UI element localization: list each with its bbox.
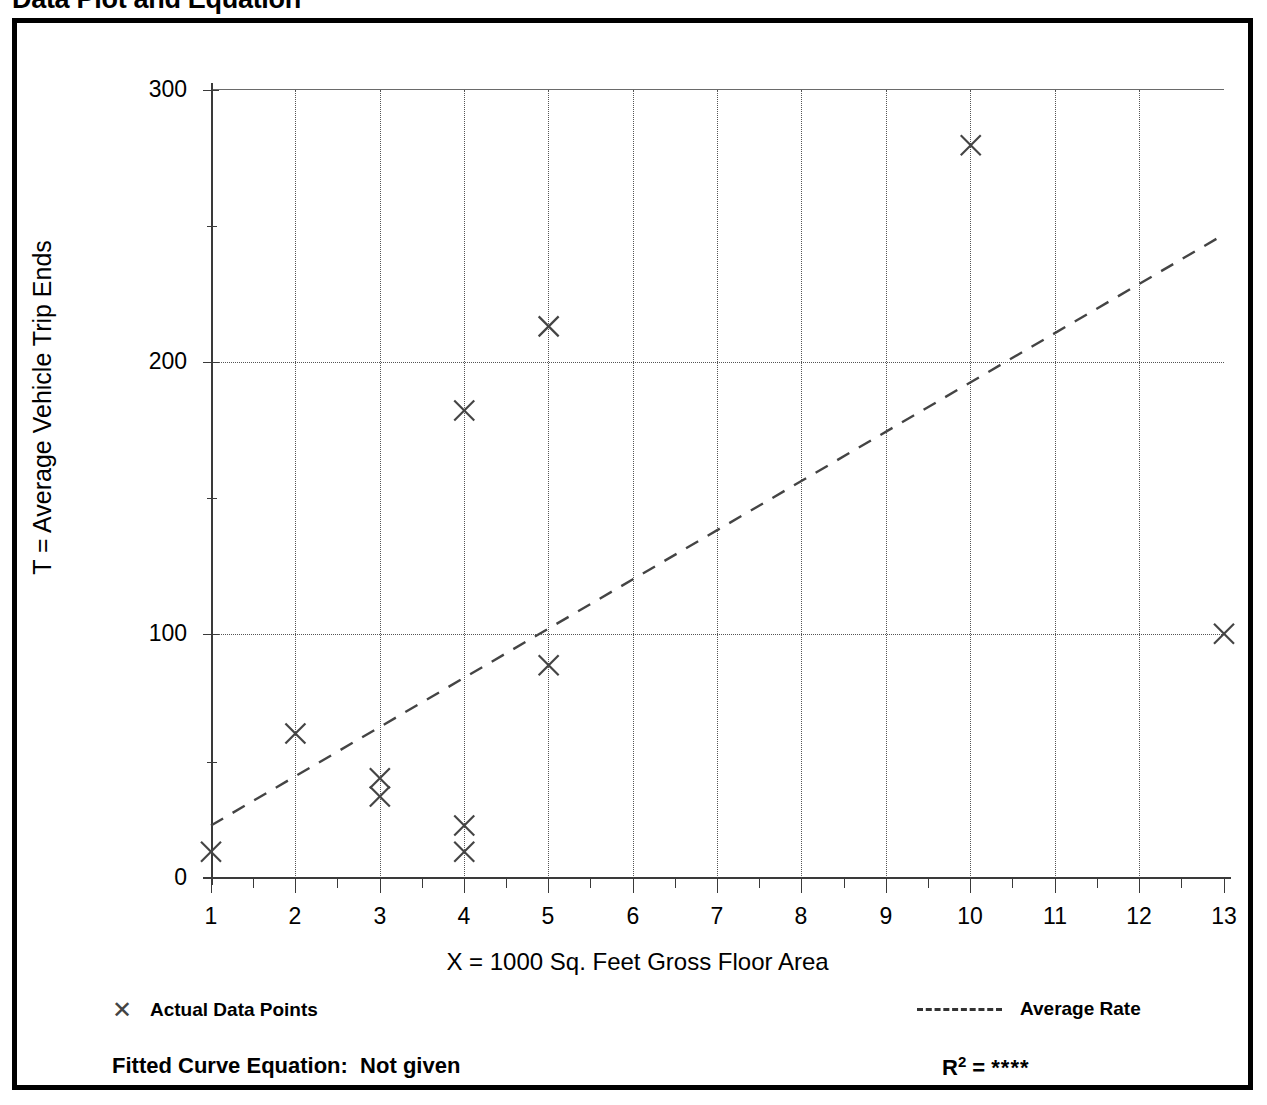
fitted-curve-equation: Fitted Curve Equation: Not given — [112, 1053, 460, 1079]
x-tick-label-7: 7 — [687, 903, 747, 930]
gridline-x-6 — [633, 90, 634, 878]
x-tick-minor-6 — [675, 879, 676, 888]
x-tick-minor-3 — [422, 879, 423, 888]
x-tick-1 — [211, 879, 212, 893]
x-tick-label-6: 6 — [603, 903, 663, 930]
dashed-line-icon — [917, 1008, 1002, 1011]
y-tick-label-200: 200 — [67, 348, 187, 375]
y-axis-title: T = Average Vehicle Trip Ends — [28, 128, 57, 688]
y-tick-label-300: 300 — [67, 76, 187, 103]
gridline-x-12 — [1139, 90, 1140, 878]
gridline-x-7 — [717, 90, 718, 878]
x-tick-9 — [886, 879, 887, 893]
x-tick-label-11: 11 — [1025, 903, 1085, 930]
r2-prefix: R — [942, 1055, 958, 1080]
x-tick-label-1: 1 — [181, 903, 241, 930]
x-tick-label-13: 13 — [1194, 903, 1254, 930]
gridline-x-9 — [886, 90, 887, 878]
x-tick-label-12: 12 — [1109, 903, 1169, 930]
gridline-x-11 — [1055, 90, 1056, 878]
x-tick-4 — [464, 879, 465, 893]
x-tick-5 — [548, 879, 549, 893]
x-tick-10 — [970, 879, 971, 893]
x-tick-minor-2 — [337, 879, 338, 888]
gridline-x-3 — [380, 90, 381, 878]
r2-equals: = — [966, 1055, 991, 1080]
x-tick-minor-1 — [253, 879, 254, 888]
x-tick-label-3: 3 — [350, 903, 410, 930]
x-marker-icon: ✕ — [112, 998, 132, 1022]
x-tick-3 — [380, 879, 381, 893]
r2-asterisks: **** — [991, 1055, 1029, 1080]
y-tick-200 — [203, 362, 219, 363]
chart-frame: 300 200 100 0 1 2 3 4 5 6 7 8 9 10 11 12… — [12, 18, 1253, 1090]
gridline-x-4 — [464, 90, 465, 878]
x-tick-minor-4 — [506, 879, 507, 888]
y-tick-minor-50 — [207, 762, 217, 763]
x-tick-label-4: 4 — [434, 903, 494, 930]
x-axis-title: X = 1000 Sq. Feet Gross Floor Area — [17, 948, 1258, 976]
legend-item-average-rate: Average Rate — [917, 998, 1141, 1020]
data-overlay — [17, 23, 1258, 1095]
x-tick-label-10: 10 — [940, 903, 1000, 930]
x-tick-13 — [1224, 879, 1225, 893]
r2-exponent: 2 — [958, 1053, 966, 1070]
x-tick-label-5: 5 — [518, 903, 578, 930]
x-tick-2 — [295, 879, 296, 893]
legend-label-actual-data-points: Actual Data Points — [150, 999, 318, 1021]
y-axis-line — [211, 83, 213, 885]
y-tick-minor-250 — [207, 226, 217, 227]
gridline-x-10 — [970, 90, 971, 878]
x-tick-label-2: 2 — [265, 903, 325, 930]
x-tick-minor-7 — [759, 879, 760, 888]
legend-label-average-rate: Average Rate — [1020, 998, 1141, 1020]
x-tick-minor-11 — [1097, 879, 1098, 888]
y-tick-100 — [203, 634, 219, 635]
gridline-x-2 — [295, 90, 296, 878]
x-tick-8 — [801, 879, 802, 893]
x-tick-7 — [717, 879, 718, 893]
page-title: Data Plot and Equation — [12, 0, 301, 15]
legend-item-actual-data-points: ✕ Actual Data Points — [112, 998, 318, 1022]
y-tick-label-0: 0 — [67, 864, 187, 891]
gridline-x-8 — [801, 90, 802, 878]
x-tick-6 — [633, 879, 634, 893]
legend: ✕ Actual Data Points Average Rate — [17, 998, 1258, 1038]
x-tick-12 — [1139, 879, 1140, 893]
y-tick-300 — [203, 90, 219, 91]
r-squared-value: R2 = **** — [942, 1053, 1030, 1081]
x-tick-minor-12 — [1181, 879, 1182, 888]
gridline-x-5 — [548, 90, 549, 878]
x-tick-label-8: 8 — [771, 903, 831, 930]
x-tick-minor-9 — [928, 879, 929, 888]
y-tick-minor-150 — [207, 498, 217, 499]
equation-row: Fitted Curve Equation: Not given R2 = **… — [17, 1053, 1258, 1098]
x-tick-label-9: 9 — [856, 903, 916, 930]
x-tick-minor-8 — [844, 879, 845, 888]
x-tick-minor-10 — [1012, 879, 1013, 888]
x-tick-11 — [1055, 879, 1056, 893]
x-tick-minor-5 — [590, 879, 591, 888]
y-tick-label-100: 100 — [67, 620, 187, 647]
